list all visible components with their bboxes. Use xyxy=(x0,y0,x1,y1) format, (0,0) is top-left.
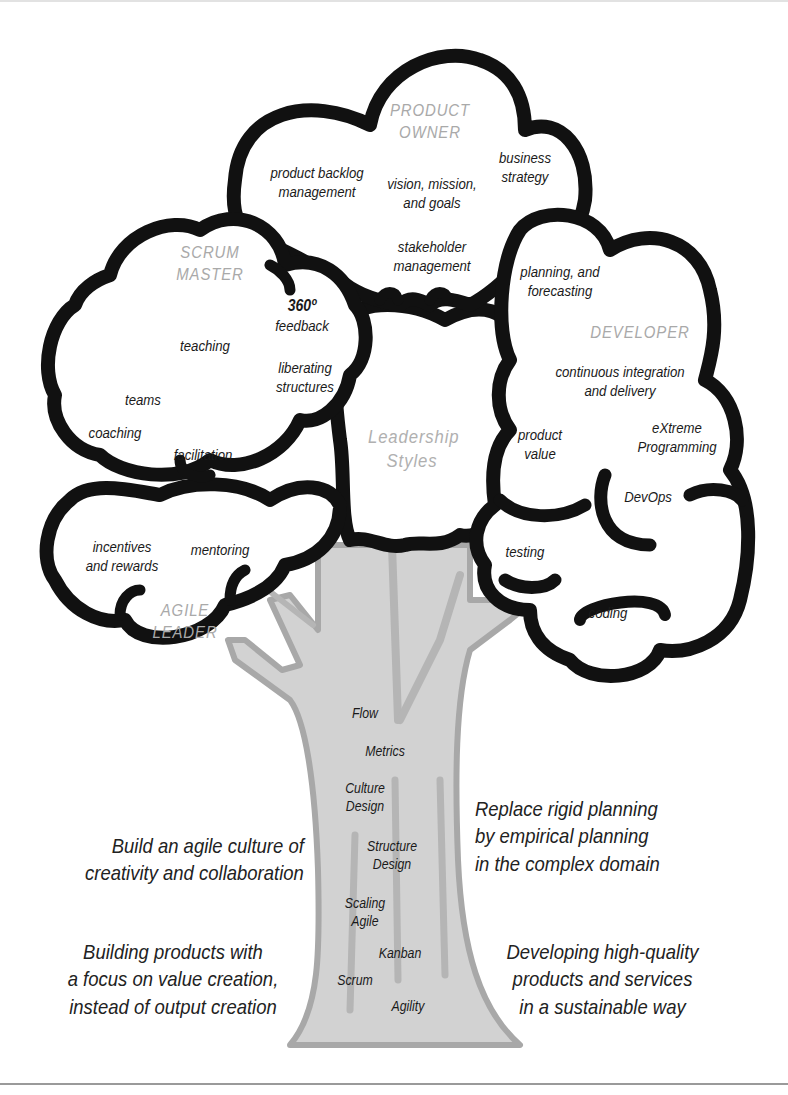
trunk-scrum: Scrum xyxy=(333,972,377,990)
item-360-feedback: 360º feedback xyxy=(267,296,337,336)
item-line: business xyxy=(494,148,556,167)
trunk-kanban: Kanban xyxy=(374,945,427,963)
statement-line: a focus on value creation, xyxy=(63,965,283,992)
statement-line: Developing high-quality xyxy=(504,938,702,965)
item-line: strategy xyxy=(494,167,556,186)
item-line: Design xyxy=(339,798,392,816)
statement-line: Build an agile culture of xyxy=(66,832,304,859)
title-line: SCRUM xyxy=(166,242,254,264)
trunk-agility: Agility xyxy=(382,998,435,1016)
item-testing: testing xyxy=(499,542,552,561)
item-line: Kanban xyxy=(374,945,427,963)
item-extreme-programming: eXtreme Programming xyxy=(629,418,726,456)
item-line: value xyxy=(514,444,567,463)
item-line: facilitation xyxy=(168,445,238,464)
bottom-divider xyxy=(0,1083,788,1085)
item-mentoring: mentoring xyxy=(185,540,255,559)
item-line: incentives xyxy=(78,537,166,556)
center-title-line-1: Leadership xyxy=(368,425,456,449)
scrum-master-title: SCRUM MASTER xyxy=(166,242,254,286)
statement-line: in a sustainable way xyxy=(504,993,702,1020)
item-business-strategy: business strategy xyxy=(494,148,556,186)
item-line: management xyxy=(384,256,481,275)
title-line: OWNER xyxy=(377,122,483,144)
item-line: management xyxy=(260,182,374,201)
statement-left-top: Build an agile culture of creativity and… xyxy=(66,832,304,887)
item-line: coding xyxy=(582,603,635,622)
item-line: Structure xyxy=(361,838,423,856)
item-liberating-structures: liberating structures xyxy=(265,358,344,396)
trunk-flow: Flow xyxy=(343,705,387,723)
statement-right-top: Replace rigid planning by empirical plan… xyxy=(475,795,664,877)
trunk-metrics: Metrics xyxy=(359,743,412,761)
item-line: and goals xyxy=(379,193,485,212)
item-line: mentoring xyxy=(185,540,255,559)
statement-line: products and services xyxy=(504,965,702,992)
item-line: Metrics xyxy=(359,743,412,761)
item-line: structures xyxy=(265,377,344,396)
item-line: eXtreme xyxy=(629,418,726,437)
trunk-culture-design: Culture Design xyxy=(339,780,392,816)
item-line: DevOps xyxy=(622,487,675,506)
item-line: testing xyxy=(499,542,552,561)
item-line: forecasting xyxy=(516,281,604,300)
title-line: LEADER xyxy=(150,622,220,644)
title-line: AGILE xyxy=(150,600,220,622)
title-line: DEVELOPER xyxy=(587,322,693,344)
item-coding: coding xyxy=(582,603,635,622)
item-line: teaching xyxy=(170,336,240,355)
item-teams: teams xyxy=(121,390,165,409)
item-line: coaching xyxy=(84,423,146,442)
trunk-structure-design: Structure Design xyxy=(361,838,423,874)
title-line: PRODUCT xyxy=(377,100,483,122)
item-line: and rewards xyxy=(78,556,166,575)
item-line: product backlog xyxy=(260,163,374,182)
trunk-scaling-agile: Scaling Agile xyxy=(339,895,392,931)
item-product-backlog-management: product backlog management xyxy=(260,163,374,201)
item-facilitation: facilitation xyxy=(168,445,238,464)
item-vision-mission-goals: vision, mission, and goals xyxy=(379,174,485,212)
item-line: feedback xyxy=(267,316,337,335)
statement-line: Building products with xyxy=(63,938,283,965)
item-product-value: product value xyxy=(514,425,567,463)
item-stakeholder-management: stakeholder management xyxy=(384,237,481,275)
center-title: Leadership Styles xyxy=(368,425,456,474)
item-line: Agility xyxy=(382,998,435,1016)
statement-line: creativity and collaboration xyxy=(66,859,304,886)
item-line: planning, and xyxy=(516,262,604,281)
agile-leader-title: AGILE LEADER xyxy=(150,600,220,644)
statement-left-bottom: Building products with a focus on value … xyxy=(63,938,283,1020)
item-line: continuous integration xyxy=(550,362,691,381)
item-line: vision, mission, xyxy=(379,174,485,193)
item-line: 360º xyxy=(267,296,337,316)
center-title-line-2: Styles xyxy=(368,449,456,473)
statement-line: by empirical planning xyxy=(475,822,664,849)
item-incentives-rewards: incentives and rewards xyxy=(78,537,166,575)
item-line: Culture xyxy=(339,780,392,798)
item-line: Scaling xyxy=(339,895,392,913)
item-teaching: teaching xyxy=(170,336,240,355)
item-line: Agile xyxy=(339,913,392,931)
item-line: Design xyxy=(361,856,423,874)
item-line: product xyxy=(514,425,567,444)
item-line: and delivery xyxy=(550,381,691,400)
statement-right-bottom: Developing high-quality products and ser… xyxy=(504,938,702,1020)
item-line: stakeholder xyxy=(384,237,481,256)
title-line: MASTER xyxy=(166,264,254,286)
developer-title: DEVELOPER xyxy=(587,322,693,344)
product-owner-title: PRODUCT OWNER xyxy=(377,100,483,144)
item-ci-cd: continuous integration and delivery xyxy=(550,362,691,400)
statement-line: in the complex domain xyxy=(475,850,664,877)
statement-line: instead of output creation xyxy=(63,993,283,1020)
item-line: Programming xyxy=(629,437,726,456)
item-line: liberating xyxy=(265,358,344,377)
item-devops: DevOps xyxy=(622,487,675,506)
item-line: Scrum xyxy=(333,972,377,990)
item-coaching: coaching xyxy=(84,423,146,442)
item-line: teams xyxy=(121,390,165,409)
statement-line: Replace rigid planning xyxy=(475,795,664,822)
item-planning-forecasting: planning, and forecasting xyxy=(516,262,604,300)
item-line: Flow xyxy=(343,705,387,723)
